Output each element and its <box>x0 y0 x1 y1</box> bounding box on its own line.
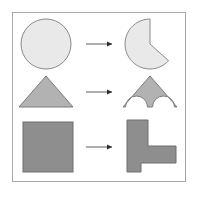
square-shape <box>23 122 73 172</box>
l-shape <box>127 120 176 172</box>
shape-diagram <box>0 0 198 199</box>
figure-canvas: Shape transformation puzzle Three rows, … <box>0 0 198 199</box>
arched-triangle-shape <box>123 76 177 107</box>
row-3-group <box>23 120 176 172</box>
row-2-group <box>19 76 177 107</box>
circle-shape <box>21 19 71 69</box>
cut-circle-shape <box>125 19 169 69</box>
row-1-group <box>21 19 169 69</box>
triangle-shape <box>19 76 73 107</box>
